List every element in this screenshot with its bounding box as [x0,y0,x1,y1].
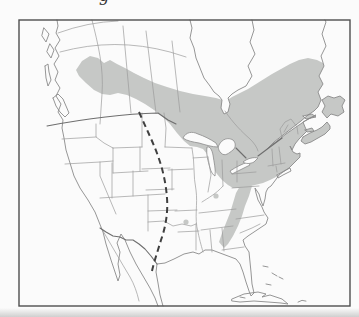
range-isolated-population-dot [183,219,188,224]
us-mexico-border [100,228,157,264]
range-shaded-area-appalachian [219,182,252,248]
cropped-caption-fragment: g [99,0,109,5]
mexico-interior-border [103,231,139,301]
north-america-range-map: g [0,0,359,317]
page-background: g [0,0,359,317]
